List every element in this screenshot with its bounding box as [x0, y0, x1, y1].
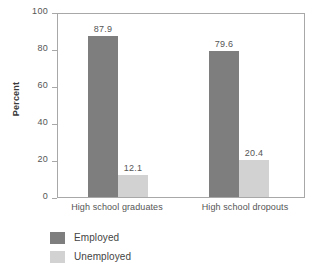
- chart-legend: Employed Unemployed: [50, 228, 131, 266]
- y-axis-title: Percent: [11, 69, 21, 129]
- legend-swatch-employed: [50, 232, 65, 244]
- plot-area: 87.9 12.1 79.6 20.4: [57, 13, 305, 198]
- bar-unemployed-dropouts: [239, 160, 269, 197]
- legend-swatch-unemployed: [50, 251, 65, 263]
- bar-value-unemployed-graduates: 12.1: [113, 163, 153, 173]
- bar-value-unemployed-dropouts: 20.4: [234, 148, 274, 158]
- bar-employed-graduates: [88, 36, 118, 197]
- y-tick-label: 100: [32, 6, 48, 16]
- legend-label-employed: Employed: [74, 232, 119, 243]
- legend-item-unemployed: Unemployed: [50, 247, 131, 266]
- bar-unemployed-graduates: [118, 175, 148, 197]
- legend-item-employed: Employed: [50, 228, 131, 247]
- bar-chart: Percent 100 80 60 40 20 0 87.9 12.1 79.6…: [0, 0, 319, 272]
- bar-value-employed-graduates: 87.9: [83, 24, 123, 34]
- bar-value-employed-dropouts: 79.6: [204, 39, 244, 49]
- legend-label-unemployed: Unemployed: [74, 251, 131, 262]
- y-tick-line: [52, 198, 57, 199]
- y-tick-label: 40: [37, 117, 48, 127]
- y-tick-label: 80: [37, 43, 48, 53]
- x-category-label-graduates: High school graduates: [57, 202, 177, 212]
- y-tick-label: 20: [37, 154, 48, 164]
- bar-employed-dropouts: [209, 51, 239, 197]
- y-tick-label: 0: [43, 191, 48, 201]
- y-tick-label: 60: [37, 80, 48, 90]
- x-category-label-dropouts: High school dropouts: [185, 202, 305, 212]
